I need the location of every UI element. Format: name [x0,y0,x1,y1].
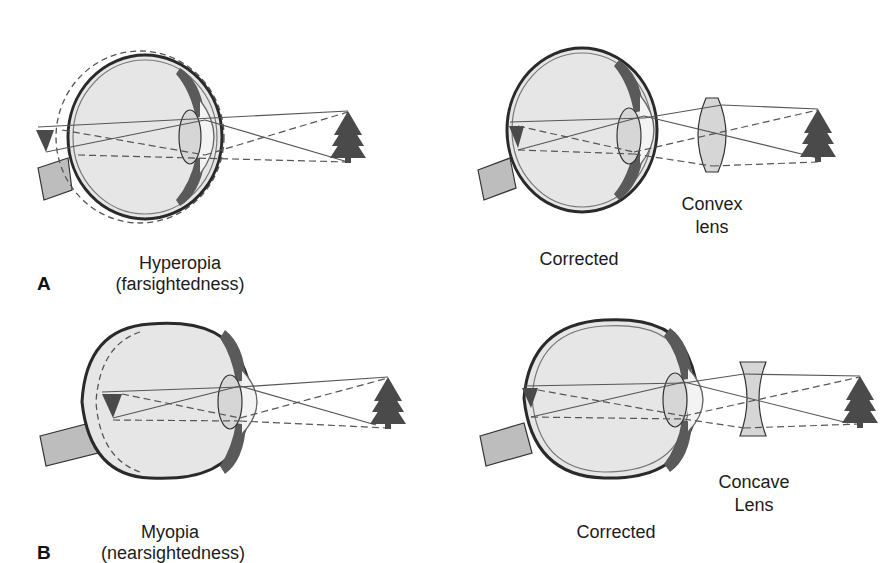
corrected-label-a: Corrected [519,249,639,270]
corrected-label-b: Corrected [556,522,676,543]
concave-lens-label-line2: Lens [699,495,809,516]
convex-corrected-illustration [444,0,888,290]
optic-nerve-icon [478,158,516,200]
concave-lens-label-line1: Concave [699,472,809,493]
panel-letter-b: B [37,542,51,563]
tree-icon [370,377,406,429]
myopia-label: Myopia [110,522,230,543]
myopia-corrected-diagram: Concave Lens Corrected [444,290,888,563]
hyperopia-corrected-diagram: Convex lens Corrected [444,0,888,290]
convex-lens-label-line2: lens [662,217,762,238]
myopia-subtitle: (nearsightedness) [88,543,258,563]
hyperopia-diagram: Hyperopia (farsightedness) A [0,0,444,290]
hyperopia-eye-illustration [0,0,444,290]
myopia-diagram: Myopia (nearsightedness) B [0,290,444,563]
tree-icon [800,109,836,162]
inverted-image-icon [36,130,54,152]
tree-icon [330,111,366,163]
convex-lens-label-line1: Convex [662,194,762,215]
hyperopia-label: Hyperopia [115,253,245,274]
tree-icon [842,376,878,428]
optic-nerve-icon [480,423,532,466]
